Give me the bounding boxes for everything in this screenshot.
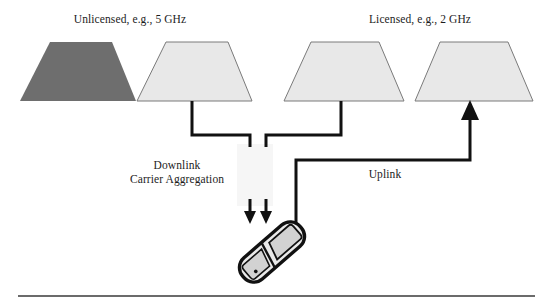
diagram-svg <box>0 0 550 303</box>
label-downlink-line1: Downlink <box>118 158 236 172</box>
downlink-connector-licensed <box>266 101 341 147</box>
uplink-arrowhead <box>461 100 479 120</box>
label-downlink-line2: Carrier Aggregation <box>118 172 236 186</box>
cell-licensed-uplink <box>415 42 533 101</box>
phone-body <box>234 217 310 288</box>
cell-licensed-downlink <box>284 42 404 101</box>
label-licensed-band: Licensed, e.g., 2 GHz <box>320 12 520 26</box>
scan-smudge <box>237 144 273 206</box>
downlink-connector-unlicensed <box>192 101 250 147</box>
figure-canvas: Unlicensed, e.g., 5 GHz Licensed, e.g., … <box>0 0 550 303</box>
label-unlicensed-band: Unlicensed, e.g., 5 GHz <box>30 12 230 26</box>
label-uplink: Uplink <box>340 167 430 181</box>
cell-unlicensed-light <box>137 42 252 101</box>
mobile-device-phone <box>234 217 310 288</box>
cell-unlicensed-dark <box>20 42 136 101</box>
label-downlink-carrier-aggregation: Downlink Carrier Aggregation <box>118 158 236 186</box>
